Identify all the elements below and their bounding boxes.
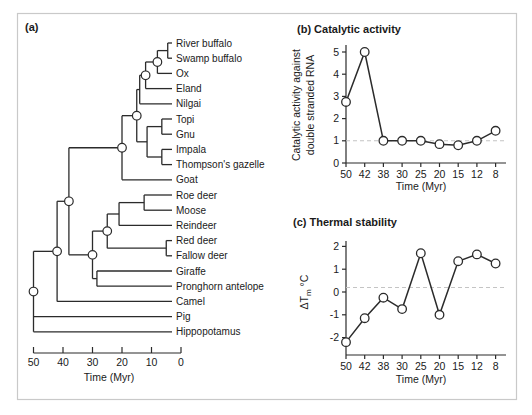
- taxon-label: Pronghorn antelope: [176, 281, 264, 292]
- taxon-label: Ox: [176, 68, 189, 79]
- tree-axis-tick-label: 20: [116, 356, 128, 368]
- chart-c-data-point: [398, 305, 407, 314]
- chart-b-x-tick-label: 15: [452, 168, 464, 180]
- taxon-label: Thompson's gazelle: [176, 159, 265, 170]
- ancestral-node-marker: [118, 143, 127, 152]
- chart-c-y-tick-label: -1: [330, 308, 339, 320]
- ancestral-node-marker: [53, 247, 62, 256]
- chart-c-x-tick-label: 12: [471, 360, 483, 372]
- chart-b-data-point: [398, 137, 407, 146]
- chart-b-y-tick-label: 4: [333, 68, 339, 80]
- chart-b-data-point: [491, 127, 500, 136]
- tree-axis-tick-label: 30: [87, 356, 99, 368]
- chart-b-x-tick-label: 20: [434, 168, 446, 180]
- chart-b-data-point: [435, 140, 444, 149]
- taxon-label: Reindeer: [176, 220, 217, 231]
- taxon-label: Red deer: [176, 235, 218, 246]
- chart-b-data-point: [473, 137, 482, 146]
- chart-c-x-tick-label: 15: [452, 360, 464, 372]
- chart-c-x-tick-label: 38: [378, 360, 390, 372]
- tree-xaxis-title: Time (Myr): [84, 371, 134, 383]
- chart-b-ylabel-line2: double stranded RNA: [304, 55, 316, 155]
- panel-a-label: (a): [25, 21, 39, 33]
- chart-c-data-point: [473, 250, 482, 259]
- chart-c-x-tick-label: 42: [359, 360, 371, 372]
- taxon-label: Eland: [176, 83, 202, 94]
- taxon-label: Goat: [176, 174, 198, 185]
- chart-c-y-tick-label: -2: [330, 331, 339, 343]
- chart-b-x-tick-label: 25: [415, 168, 427, 180]
- tree-axis-tick-label: 10: [146, 356, 158, 368]
- chart-b-x-tick-label: 38: [378, 168, 390, 180]
- chart-b-x-tick-label: 30: [396, 168, 408, 180]
- panel-c-title: (c) Thermal stability: [293, 216, 398, 228]
- panel-b-title: (b) Catalytic activity: [297, 23, 402, 35]
- chart-c-data-point: [342, 338, 351, 347]
- chart-c-y-tick-label: 0: [333, 286, 339, 298]
- tree-axis-tick-label: 40: [57, 356, 69, 368]
- chart-c-data-point: [435, 311, 444, 320]
- chart-b-y-tick-label: 5: [333, 46, 339, 58]
- chart-b-data-point: [417, 137, 426, 146]
- taxon-label: Swamp buffalo: [176, 53, 242, 64]
- chart-c-data-point: [454, 257, 463, 266]
- taxon-label: Fallow deer: [176, 250, 228, 261]
- chart-c-xaxis-title: Time (Myr): [396, 373, 446, 385]
- taxon-label: Impala: [176, 144, 206, 155]
- chart-c-x-tick-label: 8: [493, 360, 499, 372]
- chart-c-data-point: [360, 314, 369, 323]
- tree-axis-tick-label: 0: [178, 356, 184, 368]
- ancestral-node-marker: [132, 111, 141, 120]
- chart-b-y-tick-label: 3: [333, 90, 339, 102]
- chart-b-x-tick-label: 12: [471, 168, 483, 180]
- ancestral-node-marker: [141, 71, 150, 80]
- chart-b-y-tick-label: 0: [333, 157, 339, 169]
- chart-c-data-point: [491, 259, 500, 268]
- figure-canvas: (a) (b) Catalytic activity (c) Thermal s…: [0, 0, 532, 415]
- chart-c-y-tick-label: 2: [333, 240, 339, 252]
- chart-b-x-tick-label: 50: [340, 168, 352, 180]
- figure-svg: (a) (b) Catalytic activity (c) Thermal s…: [0, 0, 532, 415]
- chart-c-x-tick-label: 30: [396, 360, 408, 372]
- chart-b-xaxis-title: Time (Myr): [396, 180, 446, 192]
- ancestral-node-marker: [88, 251, 97, 260]
- chart-c-data-point: [379, 293, 388, 302]
- chart-b-data-point: [342, 98, 351, 107]
- chart-b-data-point: [360, 48, 369, 57]
- chart-b-data-point: [379, 137, 388, 146]
- ancestral-node-marker: [65, 197, 74, 206]
- taxon-label: Hippopotamus: [176, 326, 240, 337]
- chart-c-data-point: [417, 249, 426, 258]
- taxon-label: Gnu: [176, 129, 195, 140]
- chart-c-x-tick-label: 25: [415, 360, 427, 372]
- taxon-label: Moose: [176, 205, 206, 216]
- chart-c-x-tick-label: 50: [340, 360, 352, 372]
- ancestral-node-marker: [153, 58, 162, 67]
- taxon-label: Giraffe: [176, 266, 206, 277]
- ancestral-node-marker: [103, 227, 112, 236]
- chart-b-y-tick-label: 2: [333, 112, 339, 124]
- taxon-label: River buffalo: [176, 38, 232, 49]
- chart-b-x-tick-label: 42: [359, 168, 371, 180]
- ancestral-node-marker: [29, 287, 38, 296]
- chart-b-ylabel-line1: Catalytic activity against: [290, 49, 302, 161]
- taxon-label: Pig: [176, 311, 190, 322]
- figure-border: [18, 14, 517, 400]
- taxon-label: Topi: [176, 114, 194, 125]
- chart-c-y-tick-label: 1: [333, 263, 339, 275]
- chart-b-data-point: [454, 141, 463, 150]
- tree-axis-tick-label: 50: [28, 356, 40, 368]
- chart-b-y-tick-label: 1: [333, 134, 339, 146]
- taxon-label: Nilgai: [176, 98, 201, 109]
- chart-c-x-tick-label: 20: [434, 360, 446, 372]
- taxon-label: Roe deer: [176, 190, 218, 201]
- taxon-label: Camel: [176, 296, 205, 307]
- chart-b-x-tick-label: 8: [493, 168, 499, 180]
